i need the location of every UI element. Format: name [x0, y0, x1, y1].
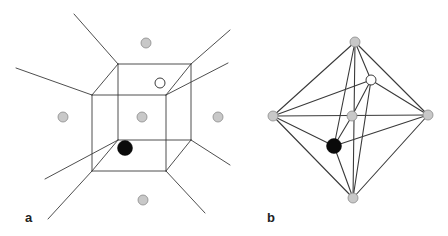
cube-depth-edge	[92, 64, 118, 95]
ray-line	[166, 63, 228, 95]
black-site-icon	[118, 141, 133, 156]
ray-line	[191, 30, 230, 64]
figure-canvas	[0, 0, 448, 236]
ray-line	[166, 171, 205, 213]
gray-site-icon	[138, 195, 148, 205]
gray-site-icon	[58, 112, 68, 122]
panel-label-a: a	[25, 211, 32, 224]
gray-site-icon	[137, 112, 147, 122]
cube-depth-edge	[166, 140, 191, 171]
node-right-icon	[423, 110, 433, 120]
gray-site-icon	[213, 112, 223, 122]
panel-a-cube-diagram	[16, 14, 230, 219]
ray-line	[48, 171, 92, 219]
graph-edge-black-left	[273, 116, 334, 146]
node-center-icon	[347, 111, 357, 121]
node-white-icon	[366, 75, 376, 85]
ray-line	[191, 140, 230, 165]
gray-site-icon	[141, 38, 151, 48]
node-left-icon	[268, 111, 278, 121]
node-black-icon	[327, 139, 342, 154]
node-bottom-icon	[348, 193, 358, 203]
panel-label-b: b	[267, 211, 275, 224]
white-site-icon	[155, 78, 165, 88]
node-top-icon	[350, 37, 360, 47]
graph-edge-black-bottom	[334, 146, 353, 198]
ray-line	[16, 68, 92, 95]
graph-edge-white-left	[273, 80, 371, 116]
ray-line	[74, 14, 118, 64]
cube-depth-edge	[92, 140, 118, 171]
panel-b-octahedron-graph	[268, 37, 433, 203]
cube-depth-edge	[166, 64, 191, 95]
graph-edge-left-bottom	[273, 116, 353, 198]
ray-line	[45, 140, 118, 179]
graph-edge-white-right	[371, 80, 428, 115]
graph-edge-top-white	[355, 42, 371, 80]
